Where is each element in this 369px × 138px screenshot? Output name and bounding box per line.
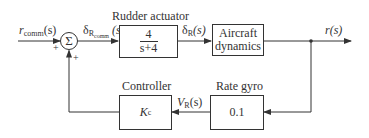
rate-gyro-block: 0.1 (210, 95, 264, 130)
summing-junction-symbol: Σ (61, 33, 77, 49)
rudder-actuator-block: 4 s+4 (119, 25, 178, 58)
feedback-sign: + (73, 52, 79, 63)
pickoff-dot (309, 39, 313, 43)
rudder-deflection-label: δR(s) (182, 23, 206, 38)
output-signal-label: r(s) (325, 23, 342, 38)
rudder-actuator-title: Rudder actuator (112, 9, 189, 24)
aircraft-dynamics-block: Aircraft dynamics (212, 24, 264, 56)
rate-gyro-title: Rate gyro (216, 79, 263, 94)
feedback-to-gyro-arrow (264, 41, 311, 112)
gyro-output-label: VR(s) (177, 95, 202, 110)
rudder-actuator-transfer-function: 4 s+4 (134, 28, 163, 55)
controller-block: Kc (119, 95, 172, 130)
input-signal-label: rcomm(s) (19, 23, 56, 38)
controller-title: Controller (122, 79, 171, 94)
input-sign: + (53, 42, 59, 53)
